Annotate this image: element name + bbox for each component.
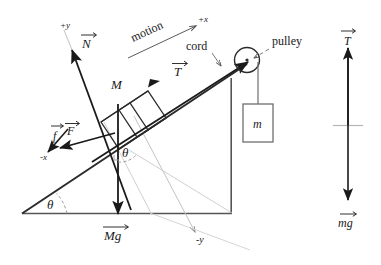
weight-block-label: Mg <box>103 228 122 243</box>
plus-y-axis-line <box>64 30 72 50</box>
cord-label: cord <box>186 39 207 53</box>
upper-angle-label: θ <box>122 145 129 160</box>
weight-block-vector: Mg <box>103 104 129 243</box>
fbd-tension-vector-bar <box>341 29 356 34</box>
pulley-leader-line <box>254 49 269 58</box>
block-M-edge-a <box>101 110 119 122</box>
pulley-axle <box>245 58 248 61</box>
pulley-annotation: pulley <box>254 34 302 58</box>
normal-force-arrow <box>72 50 131 210</box>
base-angle-label: θ <box>47 197 54 212</box>
local-axis-construction <box>104 116 250 250</box>
applied-force-label: F <box>66 124 75 138</box>
motion-label: motion <box>128 18 165 45</box>
normal-force-label: N <box>81 36 92 51</box>
plus-y-axis-label: +y <box>60 20 70 30</box>
pulley-label: pulley <box>272 34 302 48</box>
fbd-weight-label: mg <box>338 216 353 230</box>
base-angle-arc <box>57 193 68 213</box>
tension-arrowhead-mid <box>148 79 160 88</box>
tension-incline-label: T <box>174 64 182 79</box>
free-body-diagram: T mg <box>333 29 363 230</box>
hanging-mass: m <box>243 104 273 142</box>
friction-vector-bar <box>51 124 64 128</box>
plus-y-axis: +y <box>60 20 72 50</box>
friction-arrow <box>48 129 68 152</box>
minus-x-axis: -x <box>40 152 47 162</box>
plus-x-axis-label: +x <box>198 14 208 24</box>
minus-x-axis-label: -x <box>40 152 47 162</box>
pulley-assembly <box>235 48 260 105</box>
physics-diagram-svg: θ -y M N <box>0 0 381 265</box>
fbd-tension-label: T <box>344 34 352 48</box>
tension-incline-midhead <box>148 79 160 88</box>
minus-y-axis-label: -y <box>196 234 204 245</box>
friction-vector: f <box>48 124 68 152</box>
block-M-edge-b <box>130 91 148 103</box>
base-angle-marker: θ <box>47 193 67 213</box>
hanging-mass-label: m <box>253 117 262 131</box>
cord-leader-line <box>212 53 221 66</box>
physics-diagram-canvas: θ -y M N <box>0 0 381 265</box>
cord-annotation: cord <box>186 39 221 66</box>
block-M-label: M <box>110 77 123 92</box>
